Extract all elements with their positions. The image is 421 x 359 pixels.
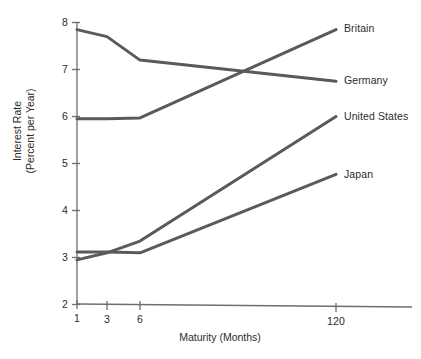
x-tick-label-3: 3 <box>92 313 122 325</box>
y-axis-title: Interest Rate (Percent per Year) <box>11 71 37 191</box>
series-label-germany: Germany <box>344 74 388 86</box>
y-tick-label-5: 5 <box>54 157 68 169</box>
x-tick-label-6: 6 <box>125 313 155 325</box>
x-axis-line <box>77 304 412 307</box>
series-line-united-states <box>77 117 336 260</box>
series-line-japan <box>77 174 336 253</box>
y-tick-label-7: 7 <box>54 63 68 75</box>
line-chart: 8 7 6 5 4 3 2 1 3 6 120 Interest Rate (P… <box>0 0 421 359</box>
y-tick-label-3: 3 <box>54 251 68 263</box>
series-line-germany <box>77 30 336 82</box>
y-tick-label-6: 6 <box>54 110 68 122</box>
x-tick-label-1: 1 <box>62 312 92 324</box>
series-label-britain: Britain <box>344 22 374 34</box>
y-tick-label-2: 2 <box>54 298 68 310</box>
series-label-japan: Japan <box>344 168 373 180</box>
y-tick-label-8: 8 <box>54 16 68 28</box>
y-axis-title-line1: Interest Rate <box>11 71 24 191</box>
series-label-united-states: United States <box>344 110 408 122</box>
x-axis-title: Maturity (Months) <box>150 331 290 343</box>
x-tick-label-120: 120 <box>321 315 351 327</box>
y-tick-label-4: 4 <box>54 204 68 216</box>
y-axis-title-line2: (Percent per Year) <box>24 71 37 191</box>
